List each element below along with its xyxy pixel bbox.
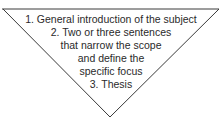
point-2-continued-line-2: and define the bbox=[0, 52, 222, 64]
point-3-thesis: 3. Thesis bbox=[0, 78, 222, 90]
point-2-continued-line-1: that narrow the scope bbox=[0, 39, 222, 51]
point-1-general-introduction: 1. General introduction of the subject bbox=[0, 13, 222, 25]
point-2-continued-line-3: specific focus bbox=[0, 65, 222, 77]
funnel-diagram: 1. General introduction of the subject 2… bbox=[0, 0, 222, 132]
point-2-narrowing-sentences: 2. Two or three sentences bbox=[0, 26, 222, 38]
